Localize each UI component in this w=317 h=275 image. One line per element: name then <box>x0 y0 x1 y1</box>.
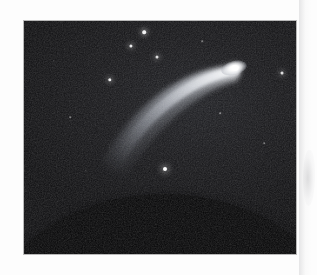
comet-photograph <box>23 20 297 255</box>
scan-edge-shadow <box>299 0 317 275</box>
scan-edge-blotch <box>303 150 315 206</box>
page-background <box>0 0 317 275</box>
